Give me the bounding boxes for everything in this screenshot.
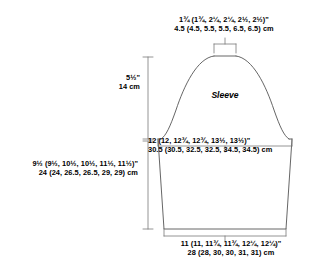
upper-arm-imperial: 12 (12, 12¾, 12¾, 13½, 13½)" [148,136,314,145]
cuff-width-imperial: 11 (11, 11¾, 11¾, 12¼, 12¼)" [152,239,310,248]
upper-arm-width-measurement-label: 12 (12, 12¾, 12¾, 13½, 13½)" 30.5 (30.5,… [148,136,314,155]
sleeve-schematic-drawing [0,0,316,267]
top-width-dimension-bracket [214,38,236,53]
top-width-imperial: 1¾ (1¾, 2¼, 2¼, 2½, 2½)" [158,15,290,24]
cap-height-metric: 14 cm [98,82,140,91]
cap-height-measurement-label: 5½" 14 cm [98,73,140,92]
body-length-imperial: 9½ (9½, 10½, 10½, 11½, 11½)" [6,159,138,168]
sleeve-label: Sleeve [185,90,265,100]
cap-height-imperial: 5½" [98,73,140,82]
upper-arm-metric: 30.5 (30.5, 32.5, 32.5, 34.5, 34.5) cm [148,145,314,154]
body-length-metric: 24 (24, 26.5, 26.5, 29, 29) cm [6,168,138,177]
body-length-measurement-label: 9½ (9½, 10½, 10½, 11½, 11½)" 24 (24, 26.… [6,159,138,178]
top-width-measurement-label: 1¾ (1¾, 2¼, 2¼, 2½, 2½)" 4.5 (4.5, 5.5, … [158,15,290,34]
top-width-metric: 4.5 (4.5, 5.5, 5.5, 6.5, 6.5) cm [158,24,290,33]
cuff-width-measurement-label: 11 (11, 11¾, 11¾, 12¼, 12¼)" 28 (28, 30,… [152,239,310,258]
cuff-width-metric: 28 (28, 30, 30, 31, 31) cm [152,248,310,257]
cap-height-dimension-line [143,57,153,139]
